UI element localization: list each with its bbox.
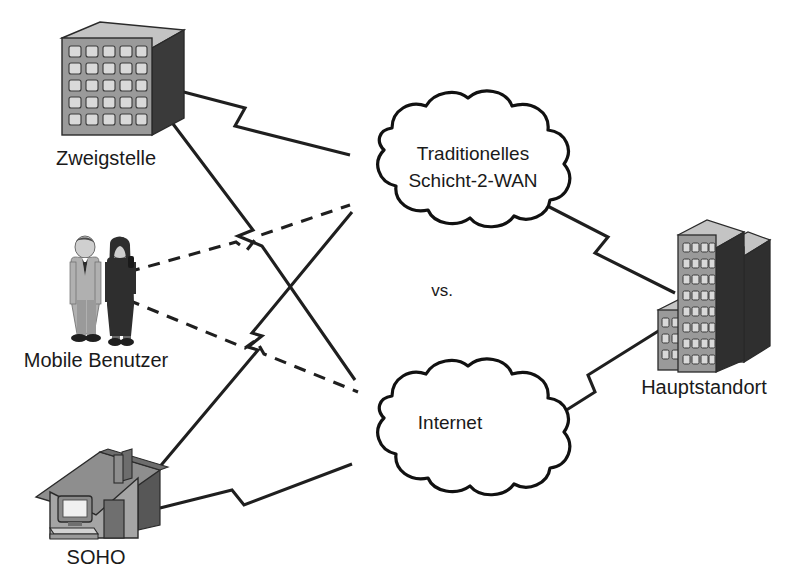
two-people-icon — [70, 236, 136, 346]
link-legacy-wan-hauptstandort — [528, 196, 675, 293]
diagram-canvas: Traditionelles Schicht-2-WAN Internet vs… — [0, 0, 787, 578]
link-zweigstelle-internet — [152, 96, 355, 380]
node-internet-cloud[interactable]: Internet — [378, 359, 570, 495]
internet-label: Internet — [418, 412, 483, 433]
node-zweigstelle[interactable]: Zweigstelle — [56, 22, 184, 169]
vs-label: vs. — [431, 281, 453, 300]
soho-label: SOHO — [67, 546, 126, 568]
house-with-computer-icon — [36, 449, 168, 539]
zweigstelle-label: Zweigstelle — [56, 147, 156, 169]
node-mobile-benutzer[interactable]: Mobile Benutzer — [24, 236, 169, 371]
link-mobile-legacy-wan — [128, 205, 350, 272]
link-soho-internet — [160, 464, 352, 508]
network-diagram: Traditionelles Schicht-2-WAN Internet vs… — [0, 0, 787, 578]
legacy-wan-label-line2: Schicht-2-WAN — [408, 170, 537, 191]
link-mobile-internet — [128, 300, 358, 392]
office-building-cluster-icon — [658, 220, 770, 372]
legacy-wan-label-line1: Traditionelles — [417, 143, 529, 164]
office-building-icon — [62, 22, 184, 135]
mobile-benutzer-label: Mobile Benutzer — [24, 349, 169, 371]
node-hauptstandort[interactable]: Hauptstandort — [641, 220, 770, 398]
node-soho[interactable]: SOHO — [36, 449, 168, 568]
node-legacy-wan-cloud[interactable]: Traditionelles Schicht-2-WAN — [378, 91, 570, 227]
hauptstandort-label: Hauptstandort — [641, 376, 767, 398]
